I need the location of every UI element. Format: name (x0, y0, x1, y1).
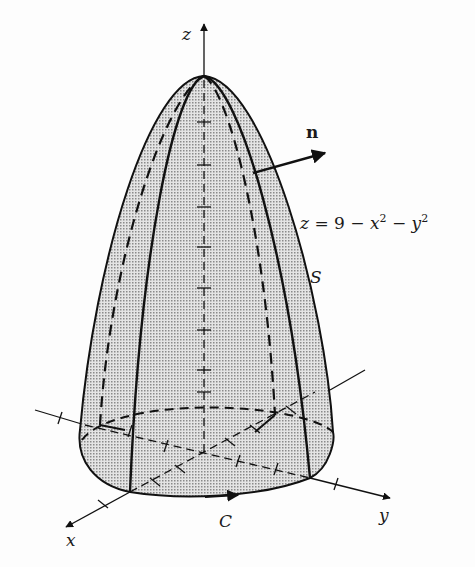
curve-c-label: C (219, 511, 232, 531)
y-axis-label: y (379, 505, 389, 525)
surface-label: S (310, 267, 322, 287)
surface-equation: z = 9 − x2 − y2 (300, 212, 428, 233)
figure-canvas: z x y C n S z = 9 − x2 − y2 (0, 0, 475, 567)
x-axis-label: x (66, 530, 76, 550)
y-axis (310, 478, 390, 498)
normal-label: n (306, 122, 318, 142)
paraboloid-diagram (0, 0, 475, 567)
z-axis-label: z (182, 24, 191, 44)
x-axis (66, 492, 130, 527)
